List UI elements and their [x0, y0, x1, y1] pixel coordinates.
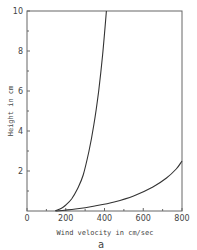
y-tick-label: 6 [18, 87, 23, 96]
x-tick-label: 800 [174, 214, 189, 223]
chart: 246810 0200400600800 Wind velocity in cm… [0, 0, 197, 250]
x-axis-ticks: 0200400600800 [24, 208, 189, 223]
plot-frame [27, 11, 182, 211]
x-tick-label: 400 [97, 214, 112, 223]
y-tick-label: 10 [13, 7, 23, 16]
y-tick-label: 2 [18, 167, 23, 176]
x-tick-label: 0 [24, 214, 29, 223]
y-tick-label: 8 [18, 47, 23, 56]
x-tick-label: 600 [136, 214, 151, 223]
x-axis-label: Wind velocity in cm/sec [57, 229, 154, 237]
steep-profile-curve [55, 11, 106, 211]
panel-label: a [98, 239, 104, 250]
shallow-profile-curve [56, 161, 182, 211]
y-axis-label: Height in cm [7, 86, 15, 137]
data-curves [55, 11, 182, 211]
y-tick-label: 4 [18, 127, 23, 136]
x-tick-label: 200 [58, 214, 73, 223]
